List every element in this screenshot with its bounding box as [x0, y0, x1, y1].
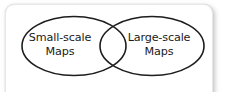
- venn-label-large-scale: Large-scale Maps: [116, 31, 202, 58]
- venn-label-large-scale-line2: Maps: [116, 45, 202, 59]
- diagram-canvas: Small-scale Maps Large-scale Maps: [0, 0, 226, 92]
- venn-label-small-scale-line1: Small-scale: [29, 31, 91, 44]
- venn-label-large-scale-line1: Large-scale: [128, 31, 191, 44]
- venn-label-small-scale: Small-scale Maps: [17, 31, 103, 58]
- venn-label-small-scale-line2: Maps: [17, 45, 103, 59]
